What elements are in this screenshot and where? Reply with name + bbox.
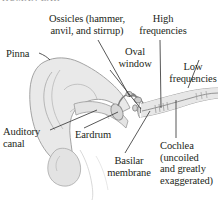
label-cochlea: Cochlea (uncoiled and greatly exaggerate… — [160, 140, 222, 186]
label-oval-window: Oval window — [112, 46, 158, 69]
label-high-frequencies: High frequencies — [134, 13, 192, 36]
leader-high-frequencies — [160, 40, 161, 108]
label-ossicles: Ossicles (hammer, anvil, and stirrup) — [41, 13, 133, 36]
label-basilar-membrane: Basilar membrane — [101, 155, 157, 178]
earlobe-shape — [48, 148, 81, 186]
ear-anatomy-figure: HUMAN EAR — [0, 0, 223, 201]
label-pinna: Pinna — [6, 48, 46, 60]
label-auditory-canal: Auditory canal — [3, 126, 53, 149]
label-low-frequencies: Low frequencies — [164, 61, 222, 84]
leader-basilar-membrane — [125, 111, 150, 153]
label-eardrum: Eardrum — [75, 129, 121, 141]
cochlea-shape — [138, 88, 218, 118]
leader-eardrum — [84, 112, 118, 128]
head-contour-line — [80, 150, 93, 200]
